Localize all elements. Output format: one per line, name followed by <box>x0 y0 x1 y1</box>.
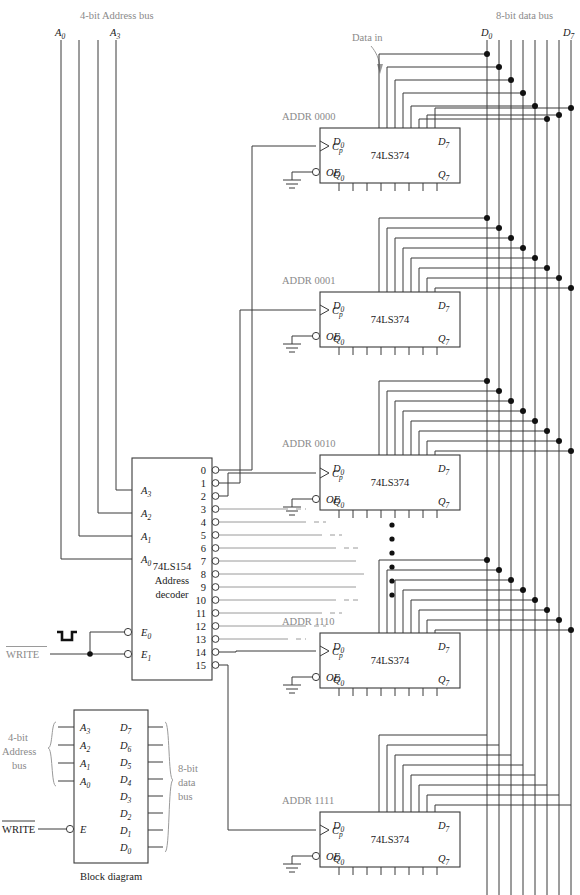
fanin-1-d7 <box>435 288 571 292</box>
decoder-output-bubble-13 <box>212 636 219 643</box>
register-0-oe-bubble <box>312 168 319 175</box>
decoder-output-label-1: 1 <box>201 478 206 489</box>
register-3-oe-bubble <box>312 673 319 680</box>
register-3-oe-to-ground <box>292 677 312 685</box>
decoder-output-label-0: 0 <box>201 465 206 476</box>
register-0-oe-to-ground <box>292 172 312 180</box>
decoder-output-bubble-1 <box>212 480 219 487</box>
data-in-arrow-icon <box>371 46 383 74</box>
decoder-output-bubble-12 <box>212 623 219 630</box>
fanin-1-d4 <box>411 258 535 292</box>
decoder-function-line1: Address <box>155 575 189 586</box>
fanin-3-d4 <box>411 600 535 633</box>
decoder-output-label-15: 15 <box>196 660 207 671</box>
decoder-output-bubble-10 <box>212 597 219 604</box>
register-block-1: ADDR 0001 74LS374 Cp OE D0 D7 Q0 Q7 <box>282 275 460 355</box>
register-1-q-output-stubs <box>339 347 437 355</box>
fanin-1-d6 <box>427 278 559 292</box>
address-bus-title: 4-bit Address bus <box>80 10 154 21</box>
register-4-addr-label: ADDR 1111 <box>282 795 334 806</box>
fanin-3-d3 <box>403 590 523 633</box>
register-3-q-output-stubs <box>339 688 437 696</box>
decoder-output-label-9: 9 <box>201 582 206 593</box>
block-diagram-right-brace <box>165 722 173 852</box>
fanin-2-d6 <box>427 441 559 455</box>
block-diagram-left-brace-label3: bus <box>12 760 27 771</box>
fanin-2-d3 <box>403 411 523 455</box>
fanin-4-d4 <box>411 775 535 812</box>
address-line-label-a0: A0 <box>54 27 65 41</box>
register-3-ground-symbol <box>283 685 301 693</box>
register-0-q-output-stubs <box>339 183 437 191</box>
decoder-output-label-5: 5 <box>201 530 206 541</box>
block-diagram-right-brace-label3: bus <box>178 791 193 802</box>
register-2-ground-symbol <box>283 507 301 515</box>
fanin-3-d6 <box>427 620 559 633</box>
register-block-3: ADDR 1110 74LS374 Cp OE D0 D7 Q0 Q7 <box>282 616 460 696</box>
register-3-part-number: 74LS374 <box>371 655 410 666</box>
e0-inverting-bubble <box>124 628 131 635</box>
block-diagram-address-input-stubs <box>58 727 74 781</box>
decoder-output-label-6: 6 <box>201 543 206 554</box>
fanin-0-d4 <box>411 106 535 128</box>
decoder-output-bubble-8 <box>212 571 219 578</box>
block-diagram-input-e: E <box>79 824 87 835</box>
data-bus-endpoint-labels: D0 D7 <box>480 27 575 41</box>
e1-inverting-bubble <box>124 650 131 657</box>
register-1-oe-to-ground <box>292 336 312 344</box>
decoder-output-label-4: 4 <box>201 517 207 528</box>
register-1-part-number: 74LS374 <box>371 314 410 325</box>
decoder-output-bubble-2 <box>212 493 219 500</box>
route-out2-to-reg2-clock <box>219 473 316 496</box>
block-diagram-e-bubble <box>66 825 73 832</box>
fanin-2-d2 <box>395 401 511 455</box>
fanin-0-d6 <box>427 115 559 128</box>
register-4-oe-bubble <box>312 852 319 859</box>
decoder-function-line2: decoder <box>155 589 189 600</box>
decoder-output-bubble-15 <box>212 662 219 669</box>
register-2-part-number: 74LS374 <box>371 477 410 488</box>
block-diagram: A3 A2 A1 A0 4-bit Address bus E WRITE D7… <box>2 710 198 882</box>
fanin-4-d7 <box>435 805 571 812</box>
decoder-part-number: 74LS154 <box>153 561 192 572</box>
fanin-0-d5 <box>419 119 547 128</box>
fanin-4-d5 <box>419 785 547 812</box>
block-diagram-write-label: WRITE <box>2 824 35 835</box>
decoder-output-label-3: 3 <box>201 504 206 515</box>
block-diagram-right-brace-label2: data <box>178 777 196 788</box>
register-3-addr-label: ADDR 1110 <box>282 616 335 627</box>
decoder-output-bubble-7 <box>212 558 219 565</box>
data-line-label-d7: D7 <box>562 27 575 41</box>
figure-canvas: 4-bit Address bus 8-bit data bus Data in… <box>0 0 580 895</box>
data-fanin-group-1 <box>379 218 571 292</box>
register-block-2: ADDR 0010 74LS374 Cp OE D0 D7 Q0 Q7 <box>282 438 460 518</box>
register-block-4: ADDR 1111 74LS374 Cp OE D0 D7 Q0 Q7 <box>282 795 460 875</box>
fanin-1-d2 <box>395 238 511 292</box>
address-bus-lines <box>61 40 132 559</box>
register-4-oe-to-ground <box>292 856 312 864</box>
address-line-label-a3: A3 <box>109 27 120 41</box>
fanin-1-d3 <box>403 248 523 292</box>
decoder-output-bubble-4 <box>212 519 219 526</box>
register-4-q-output-stubs <box>339 867 437 875</box>
write-label-group: WRITE <box>6 647 47 661</box>
decoder-output-label-2: 2 <box>201 491 206 502</box>
fanin-4-d2 <box>395 755 511 812</box>
write-junction-dot <box>87 651 93 657</box>
register-2-addr-label: ADDR 0010 <box>282 438 335 449</box>
circuit-diagram: 4-bit Address bus 8-bit data bus Data in… <box>0 0 580 895</box>
data-fanin-dots-2 <box>484 378 574 454</box>
block-diagram-right-brace-label1: 8-bit <box>178 763 198 774</box>
data-fanin-dots-1 <box>484 215 574 291</box>
data-bus-lines <box>487 40 571 895</box>
register-0-part-number: 74LS374 <box>371 150 410 161</box>
data-in-label: Data in <box>352 32 383 43</box>
block-diagram-caption: Block diagram <box>80 871 142 882</box>
data-fanin-group-3 <box>379 560 571 633</box>
decoder-output-bubble-14 <box>212 649 219 656</box>
decoder-output-label-8: 8 <box>201 569 206 580</box>
route-out14-to-reg3-clock <box>219 651 316 652</box>
decoder-output-label-14: 14 <box>196 647 207 658</box>
register-4-ground-symbol <box>283 864 301 872</box>
block-diagram-left-brace-label1: 4-bit <box>8 732 28 743</box>
